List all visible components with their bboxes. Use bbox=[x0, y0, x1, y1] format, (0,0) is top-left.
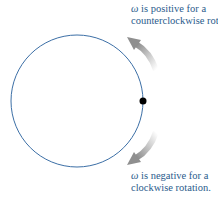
label-text: is positive for a bbox=[138, 3, 206, 14]
label-text: is negative for a bbox=[138, 170, 208, 181]
label-text: counterclockwise rotation. bbox=[131, 15, 218, 27]
rotation-circle bbox=[11, 35, 143, 167]
particle-point bbox=[140, 98, 147, 105]
label-text: clockwise rotation. bbox=[131, 182, 211, 194]
negative-omega-label: ω is negative for a clockwise rotation. bbox=[131, 170, 211, 194]
positive-omega-label: ω is positive for a counterclockwise rot… bbox=[131, 3, 218, 27]
counterclockwise-arrow-icon bbox=[127, 37, 156, 70]
clockwise-arrow-icon bbox=[127, 132, 156, 165]
